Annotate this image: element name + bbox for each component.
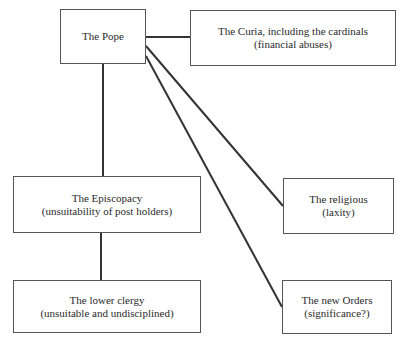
node-subtitle: (unsuitability of post holders)	[42, 205, 172, 218]
node-religious: The religious (laxity)	[283, 178, 394, 234]
node-subtitle: (laxity)	[322, 206, 354, 219]
node-title: The Episcopacy	[72, 192, 143, 205]
node-title: The lower clergy	[70, 294, 145, 307]
node-curia: The Curia, including the cardinals (fina…	[190, 10, 396, 66]
node-lower-clergy: The lower clergy (unsuitable and undisci…	[13, 280, 201, 333]
node-subtitle: (significance?)	[304, 307, 369, 320]
node-title: The religious	[309, 193, 367, 206]
node-pope: The Pope	[60, 9, 146, 64]
node-new-orders: The new Orders (significance?)	[282, 280, 392, 334]
node-title: The Curia, including the cardinals	[218, 25, 368, 38]
node-title: The Pope	[82, 30, 124, 43]
node-title: The new Orders	[302, 294, 373, 307]
node-subtitle: (financial abuses)	[254, 38, 332, 51]
node-episcopacy: The Episcopacy (unsuitability of post ho…	[13, 176, 201, 233]
node-subtitle: (unsuitable and undisciplined)	[40, 307, 173, 320]
